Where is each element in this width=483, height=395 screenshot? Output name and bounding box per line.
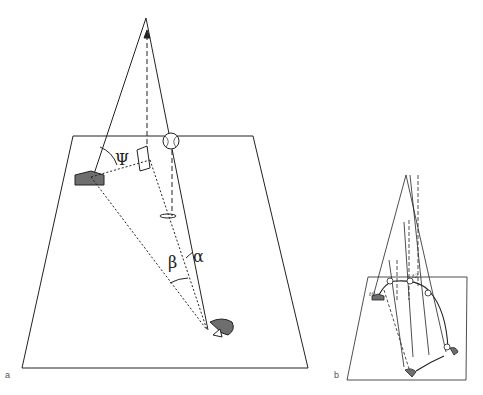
time-label-t0: t0 xyxy=(369,290,375,297)
ground-plane-b xyxy=(347,277,467,380)
ground-plane xyxy=(22,136,308,368)
panel-label-a: a xyxy=(5,370,10,380)
fielder-path-arrow xyxy=(416,356,444,371)
panel-b xyxy=(347,175,467,380)
projection-card xyxy=(137,146,150,171)
time-label-t2: t2 xyxy=(412,272,418,279)
projection-line-right xyxy=(146,18,208,330)
panel-label-b: b xyxy=(334,370,339,380)
beta-arc xyxy=(170,278,188,283)
ball-icon xyxy=(163,133,179,149)
alpha-arc xyxy=(186,252,193,258)
alpha-label: α xyxy=(193,247,204,266)
panel-a xyxy=(22,18,308,368)
home-plate-icon xyxy=(75,171,104,185)
beta-label: β xyxy=(168,253,177,272)
psi-label: Ψ xyxy=(115,150,129,169)
fielder-icon xyxy=(210,319,233,335)
fielder-icon-b xyxy=(405,369,416,377)
figure-canvas: Ψ β α t0 t2 xyxy=(0,0,483,395)
